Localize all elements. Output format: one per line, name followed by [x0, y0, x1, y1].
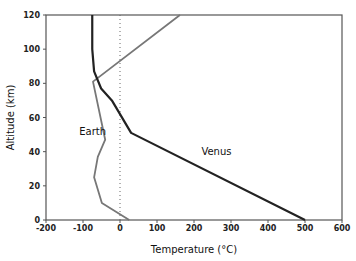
y-axis-label: Altitude (km)	[5, 85, 16, 151]
y-tick-label: 120	[23, 11, 40, 20]
x-tick-label: 200	[186, 224, 203, 233]
x-tick-label: 0	[117, 224, 123, 233]
plot-frame	[46, 15, 342, 220]
altitude-temperature-chart: -200-10001002003004005006000204060801001…	[0, 0, 356, 261]
y-tick-label: 80	[29, 79, 41, 88]
y-tick-label: 40	[29, 148, 41, 157]
y-tick-label: 60	[29, 114, 41, 123]
y-tick-label: 0	[34, 216, 40, 225]
x-tick-label: 300	[223, 224, 240, 233]
series-line-earth	[93, 15, 180, 220]
x-tick-label: 600	[334, 224, 351, 233]
x-tick-label: 400	[260, 224, 277, 233]
x-tick-label: -100	[73, 224, 93, 233]
series-label-earth: Earth	[79, 126, 106, 137]
x-tick-label: -200	[36, 224, 56, 233]
series-line-venus	[92, 15, 305, 220]
series-label-venus: Venus	[201, 146, 231, 157]
x-axis-label: Temperature (°C)	[150, 244, 237, 255]
y-tick-label: 20	[29, 182, 41, 191]
y-tick-label: 100	[23, 45, 40, 54]
chart-root: -200-10001002003004005006000204060801001…	[0, 0, 356, 261]
x-tick-label: 500	[297, 224, 314, 233]
x-tick-label: 100	[149, 224, 166, 233]
